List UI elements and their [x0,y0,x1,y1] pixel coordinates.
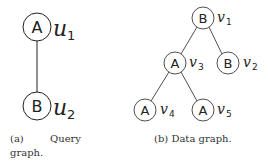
data-node-v5: A v 5 [192,99,232,121]
svg-text:A: A [171,56,180,71]
svg-text:A: A [141,103,150,118]
query-caption-word: Query [50,132,81,145]
data-edge-v1-v2 [209,27,222,54]
svg-text:u: u [53,95,67,120]
query-node-u1: A u 1 [23,13,75,43]
query-node-u2: B u 2 [23,92,75,122]
svg-text:A: A [199,103,208,118]
svg-text:4: 4 [169,109,175,119]
data-edge-v1-v3 [181,27,197,54]
svg-text:B: B [32,97,43,116]
svg-text:v: v [243,54,251,70]
svg-text:B: B [224,56,233,71]
svg-text:1: 1 [226,17,232,27]
data-node-v4: A v 4 [134,99,175,121]
data-node-v2: B v 2 [217,52,258,74]
svg-text:u: u [53,16,67,41]
svg-text:v: v [217,9,225,25]
svg-text:v: v [217,101,225,117]
data-edge-v3-v4 [151,72,169,101]
data-node-v1: B v 1 [192,7,232,29]
query-caption-line2: graph. [10,146,43,159]
svg-text:B: B [199,11,208,26]
svg-text:2: 2 [252,62,258,72]
query-caption-label: (a) [10,132,24,145]
svg-text:2: 2 [67,107,75,122]
data-edge-v3-v5 [181,72,197,101]
data-caption: (b) Data graph. [154,132,232,145]
svg-text:A: A [32,18,43,37]
svg-text:1: 1 [67,28,75,43]
svg-text:3: 3 [198,62,204,72]
svg-text:v: v [189,54,197,70]
svg-text:v: v [160,101,168,117]
data-node-v3: A v 3 [164,52,204,74]
svg-text:5: 5 [226,109,232,119]
